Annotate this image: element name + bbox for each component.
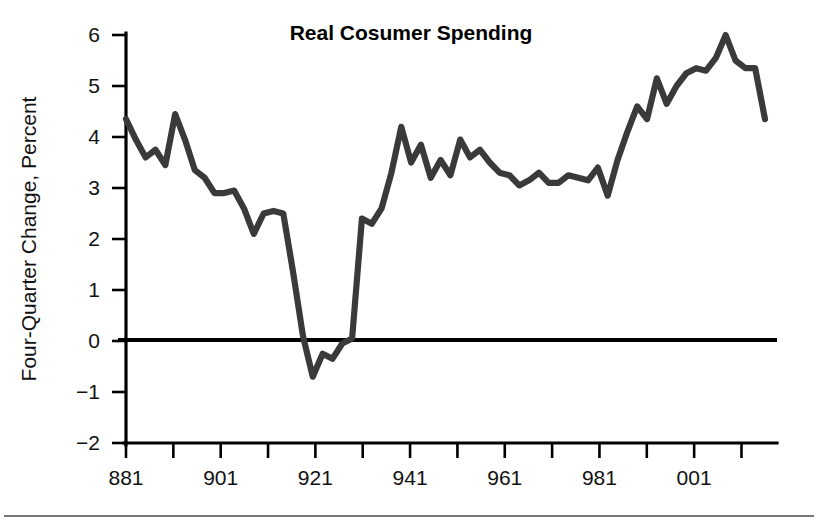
- y-tick-label: 2: [88, 227, 100, 250]
- x-tick-label: 901: [203, 466, 238, 489]
- x-tick-label: 961: [487, 466, 522, 489]
- y-tick-label: −2: [76, 431, 100, 454]
- y-tick-label: 4: [88, 125, 100, 148]
- line-chart: Real Cosumer Spending Four-Quarter Chang…: [0, 0, 818, 527]
- y-tick-label: 5: [88, 74, 100, 97]
- x-tick-label: 941: [393, 466, 428, 489]
- y-tick-label: 1: [88, 278, 100, 301]
- y-tick-label: 6: [88, 23, 100, 46]
- y-tick-label: 3: [88, 176, 100, 199]
- y-tick-label: −1: [76, 380, 100, 403]
- chart-figure: Real Cosumer Spending Four-Quarter Chang…: [0, 0, 818, 527]
- x-tick-label: 921: [298, 466, 333, 489]
- y-axis-label: Four-Quarter Change, Percent: [17, 96, 40, 381]
- x-tick-label: 881: [108, 466, 143, 489]
- x-tick-label: 981: [582, 466, 617, 489]
- y-tick-label: 0: [88, 329, 100, 352]
- x-tick-label: 001: [677, 466, 712, 489]
- chart-title: Real Cosumer Spending: [290, 21, 533, 44]
